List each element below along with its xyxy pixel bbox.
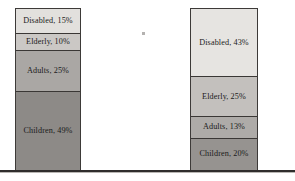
bar-segment-adults-left[interactable]: Adults, 25% (16, 50, 80, 91)
left-stacked-bar: Disabled, 15% Elderly, 10% Adults, 25% C… (15, 8, 81, 171)
bar-segment-children-left[interactable]: Children, 49% (16, 91, 80, 170)
bar-segment-disabled-right[interactable]: Disabled, 43% (191, 9, 257, 76)
bar-segment-label: Disabled, 15% (23, 17, 73, 25)
bar-segment-adults-right[interactable]: Adults, 13% (191, 116, 257, 137)
bar-segment-label: Adults, 25% (27, 67, 69, 75)
chart-canvas: Disabled, 15% Elderly, 10% Adults, 25% C… (0, 0, 295, 181)
bar-segment-label: Children, 20% (199, 150, 248, 158)
bar-segment-children-right[interactable]: Children, 20% (191, 138, 257, 170)
bar-segment-disabled-left[interactable]: Disabled, 15% (16, 9, 80, 33)
bar-segment-elderly-left[interactable]: Elderly, 10% (16, 33, 80, 50)
bar-segment-elderly-right[interactable]: Elderly, 25% (191, 76, 257, 116)
bar-segment-label: Disabled, 43% (199, 39, 249, 47)
scan-artifact-speck (142, 32, 145, 35)
bar-segment-label: Adults, 13% (203, 123, 245, 131)
bar-segment-label: Children, 49% (23, 127, 72, 135)
bar-segment-label: Elderly, 25% (202, 93, 246, 101)
right-stacked-bar: Disabled, 43% Elderly, 25% Adults, 13% C… (190, 8, 258, 171)
baseline-shadow-rule (0, 172, 295, 173)
bar-segment-label: Elderly, 10% (26, 38, 70, 46)
